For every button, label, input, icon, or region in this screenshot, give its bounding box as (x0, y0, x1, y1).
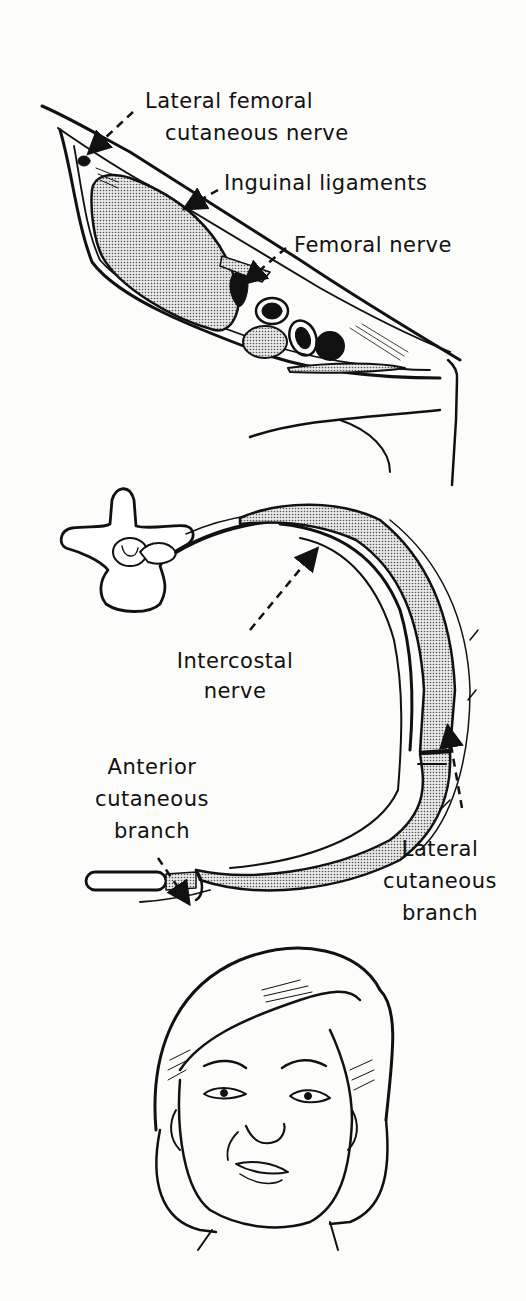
label-lateral-femoral-line1: Lateral femoral (145, 88, 313, 114)
label-lateral-femoral-line2: cutaneous nerve (165, 120, 349, 146)
label-intercostal-line2: nerve (160, 678, 310, 704)
label-lateral-line2: cutaneous (370, 868, 510, 894)
label-femoral-nerve: Femoral nerve (294, 232, 452, 258)
face-drawing (155, 948, 393, 1250)
label-intercostal-line1: Intercostal (160, 648, 310, 674)
label-anterior-line1: Anterior (82, 754, 222, 780)
label-lateral-line1: Lateral (370, 836, 510, 862)
label-anterior-line2: cutaneous (82, 786, 222, 812)
label-anterior-line3: branch (82, 818, 222, 844)
label-inguinal-ligaments: Inguinal ligaments (224, 170, 427, 196)
inguinal-cross-section-drawing (42, 106, 460, 485)
label-lateral-line3: branch (370, 900, 510, 926)
